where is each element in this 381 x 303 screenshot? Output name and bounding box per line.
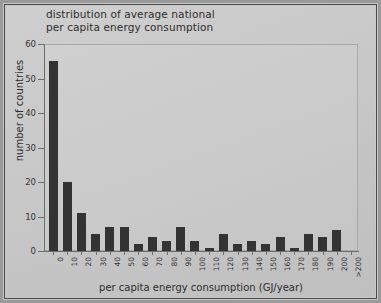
x-tick-mark — [167, 252, 168, 255]
x-tick-slot: 90 — [174, 252, 188, 280]
bar-slot — [103, 44, 117, 251]
bar-slot — [245, 44, 259, 251]
x-tick-slot: 50 — [117, 252, 131, 280]
x-tick-mark — [81, 252, 82, 255]
x-tick-slot: 160 — [273, 252, 287, 280]
x-tick-mark — [252, 252, 253, 255]
x-tick-slot: 80 — [160, 252, 174, 280]
bar — [49, 61, 58, 251]
plot-area — [44, 44, 358, 251]
bar-slot — [160, 44, 174, 251]
x-tick-slot: 30 — [89, 252, 103, 280]
x-axis-ticks: 0102030405060708090100110120130140150160… — [44, 252, 358, 280]
x-tick-slot: 140 — [245, 252, 259, 280]
x-tick-mark — [181, 252, 182, 255]
x-tick-mark — [124, 252, 125, 255]
y-tick-label: 10 — [20, 212, 36, 222]
x-tick-slot: 100 — [188, 252, 202, 280]
bar-slot — [74, 44, 88, 251]
x-tick-mark — [209, 252, 210, 255]
x-tick-slot: 180 — [301, 252, 315, 280]
bar-slot — [316, 44, 330, 251]
x-tick-slot: 0 — [46, 252, 60, 280]
y-tick-mark — [38, 44, 44, 45]
chart-title: distribution of average national per cap… — [46, 8, 286, 33]
x-tick-slot: 130 — [230, 252, 244, 280]
bar — [134, 244, 143, 251]
x-tick-mark — [308, 252, 309, 255]
x-tick-label: >200 — [354, 257, 363, 278]
x-tick-mark — [110, 252, 111, 255]
bar — [105, 227, 114, 251]
x-tick-mark — [195, 252, 196, 255]
y-axis-line — [44, 44, 45, 252]
bar — [261, 244, 270, 251]
bar — [233, 244, 242, 251]
y-tick-mark — [38, 113, 44, 114]
x-tick-slot: 20 — [74, 252, 88, 280]
x-tick-slot: 190 — [316, 252, 330, 280]
x-tick-mark — [238, 252, 239, 255]
y-tick-mark — [38, 148, 44, 149]
chart-page: distribution of average national per cap… — [0, 0, 381, 303]
y-tick-mark — [38, 217, 44, 218]
x-tick-slot: 70 — [145, 252, 159, 280]
x-tick-mark — [294, 252, 295, 255]
bar-slot — [117, 44, 131, 251]
bar-slot — [301, 44, 315, 251]
x-tick-slot: 60 — [131, 252, 145, 280]
x-tick-slot: 150 — [259, 252, 273, 280]
bar — [63, 182, 72, 251]
bar — [162, 241, 171, 251]
x-tick-slot: 170 — [287, 252, 301, 280]
x-tick-mark — [96, 252, 97, 255]
bar — [91, 234, 100, 251]
bar — [148, 237, 157, 251]
x-tick-mark — [223, 252, 224, 255]
x-tick-mark — [53, 252, 54, 255]
bar-slot — [145, 44, 159, 251]
x-tick-slot: 120 — [216, 252, 230, 280]
y-tick-label: 0 — [20, 246, 36, 256]
y-tick-mark — [38, 79, 44, 80]
bar-slot — [259, 44, 273, 251]
x-tick-slot: >200 — [344, 252, 358, 280]
bar-slot — [330, 44, 344, 251]
bar-slot — [230, 44, 244, 251]
y-tick-mark — [38, 182, 44, 183]
x-tick-slot: 200 — [330, 252, 344, 280]
bar — [77, 213, 86, 251]
bar — [247, 241, 256, 251]
x-tick-slot: 10 — [60, 252, 74, 280]
x-tick-mark — [323, 252, 324, 255]
x-tick-mark — [266, 252, 267, 255]
bar-slot — [60, 44, 74, 251]
bar — [120, 227, 129, 251]
x-tick-mark — [351, 252, 352, 255]
x-tick-mark — [67, 252, 68, 255]
bar — [219, 234, 228, 251]
y-axis-title: number of countries — [14, 16, 25, 206]
bar-slot — [273, 44, 287, 251]
bar — [276, 237, 285, 251]
x-tick-mark — [138, 252, 139, 255]
bar — [190, 241, 199, 251]
bar-slot — [216, 44, 230, 251]
bar-slot — [344, 44, 358, 251]
x-tick-slot: 40 — [103, 252, 117, 280]
bar-series — [44, 44, 358, 251]
bar — [304, 234, 313, 251]
bar-slot — [46, 44, 60, 251]
bar-slot — [188, 44, 202, 251]
bar-slot — [174, 44, 188, 251]
bar-slot — [202, 44, 216, 251]
x-tick-slot: 110 — [202, 252, 216, 280]
bar-slot — [131, 44, 145, 251]
x-tick-mark — [280, 252, 281, 255]
x-tick-mark — [337, 252, 338, 255]
bar-slot — [287, 44, 301, 251]
x-axis-title: per capita energy consumption (GJ/year) — [44, 282, 358, 293]
bar-slot — [89, 44, 103, 251]
x-tick-mark — [152, 252, 153, 255]
bar — [318, 237, 327, 251]
